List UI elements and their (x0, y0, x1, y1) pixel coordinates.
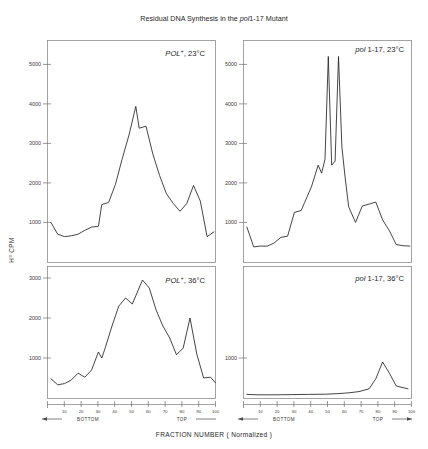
panel-top-right-curve (247, 57, 410, 247)
ytick-label: 1000 (29, 355, 41, 361)
top-marker-label: TOP (373, 417, 384, 422)
xtick-label: 40 (112, 409, 117, 414)
xtick-label: 100 (408, 409, 416, 414)
ytick-label: 2000 (29, 315, 41, 321)
xtick-label: 80 (376, 409, 381, 414)
panel-top-left-label: POL+, 23°C (165, 48, 205, 58)
panel-label-main: POL (165, 49, 180, 58)
ytick-label: 1000 (29, 219, 41, 225)
xtick-label: 70 (359, 409, 364, 414)
x-axis-left: 10 20 30 40 50 60 70 80 90 100 BOTTOM TO… (42, 401, 220, 422)
xtick-label: 90 (392, 409, 397, 414)
panel-top-left-curve (51, 106, 214, 236)
panel-label-rest: , 23°C (184, 49, 206, 58)
figure-container: Residual DNA Synthesis in the pol1-17 Mu… (0, 0, 428, 449)
ytick-label: 2000 (225, 180, 237, 186)
xtick-label: 70 (163, 409, 168, 414)
figure-title-italic: pol (239, 14, 250, 23)
panel-bottom-right-label: pol 1-17, 36°C (354, 274, 404, 283)
ytick-label: 3000 (225, 140, 237, 146)
panel-label-italic: pol (354, 274, 365, 283)
xtick-label: 10 (62, 409, 67, 414)
panel-top-right: 1000 2000 3000 4000 5000 pol 1-17, 23°C (225, 41, 412, 263)
ytick-label: 4000 (225, 101, 237, 107)
xtick-label: 100 (212, 409, 220, 414)
bottom-marker-label: BOTTOM (273, 417, 295, 422)
xtick-label: 60 (342, 409, 347, 414)
xtick-label: 50 (129, 409, 134, 414)
panel-label-rest: , 36°C (184, 276, 206, 285)
panel-top-left-frame (48, 41, 216, 263)
xtick-label: 50 (325, 409, 330, 414)
xtick-label: 30 (96, 409, 101, 414)
figure-title: Residual DNA Synthesis in the pol1-17 Mu… (140, 14, 287, 23)
bottom-arrow-icon (42, 417, 47, 421)
xtick-label: 60 (146, 409, 151, 414)
top-marker-label: TOP (177, 417, 188, 422)
x-axis-left-ticks: 10 20 30 40 50 60 70 80 90 100 (62, 401, 220, 414)
bottom-arrow-icon (238, 417, 243, 421)
y-axis-caption: H3 CPM (8, 237, 15, 262)
panel-bottom-right-curve (247, 362, 408, 395)
panel-label-italic: pol (354, 45, 365, 54)
ytick-label: 2000 (29, 180, 41, 186)
panel-bottom-left-label: POL+, 36°C (165, 275, 205, 285)
x-axis-right-ticks: 10 20 30 40 50 60 70 80 90 100 (258, 401, 416, 414)
panel-bottom-left: 1000 2000 3000 POL+, 36°C (29, 267, 216, 399)
panel-label-rest: 1-17, 36°C (366, 274, 405, 283)
xtick-label: 80 (180, 409, 185, 414)
panel-bottom-right: 1000 pol 1-17, 36°C (225, 267, 412, 399)
xtick-label: 40 (308, 409, 313, 414)
ytick-label: 1000 (225, 355, 237, 361)
panel-bottom-right-frame (244, 267, 412, 399)
bottom-marker-label: BOTTOM (77, 417, 99, 422)
xtick-label: 20 (275, 409, 280, 414)
ytick-label: 5000 (29, 61, 41, 67)
top-arrow-icon (407, 417, 412, 421)
figure-title-prefix: Residual DNA Synthesis in the (140, 14, 239, 23)
ytick-label: 1000 (225, 219, 237, 225)
panel-label-rest: 1-17, 23°C (366, 45, 405, 54)
panel-top-left: 1000 2000 3000 4000 5000 POL+, 23°C (29, 41, 216, 263)
xtick-label: 90 (196, 409, 201, 414)
ytick-label: 3000 (29, 140, 41, 146)
xtick-label: 10 (258, 409, 263, 414)
panel-label-main: POL (165, 276, 180, 285)
ytick-label: 5000 (225, 61, 237, 67)
xtick-label: 20 (79, 409, 84, 414)
panel-top-right-label: pol 1-17, 23°C (354, 45, 404, 54)
x-axis-caption: FRACTION NUMBER ( Normalized ) (156, 431, 272, 439)
ytick-label: 4000 (29, 101, 41, 107)
ytick-label: 3000 (29, 275, 41, 281)
xtick-label: 30 (292, 409, 297, 414)
figure-title-suffix: 1-17 Mutant (249, 14, 287, 23)
panel-bottom-left-curve (51, 280, 216, 385)
svg-text:H3 CPM: H3 CPM (8, 237, 15, 262)
x-axis-right: 10 20 30 40 50 60 70 80 90 100 BOTTOM TO… (238, 401, 416, 422)
